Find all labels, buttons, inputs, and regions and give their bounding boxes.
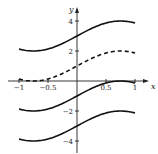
x-axis-arrow-icon	[143, 79, 149, 83]
x-tick-label: 1	[133, 84, 137, 92]
axes	[8, 7, 149, 153]
chart: −1−0.50.5142−2−4 x y	[0, 0, 158, 154]
y-tick-label: −2	[63, 108, 73, 116]
x-tick-label: −0.5	[40, 84, 57, 92]
y-tick-label: 2	[69, 48, 73, 56]
y-axis-arrow-icon	[75, 7, 79, 13]
x-axis-label: x	[151, 82, 156, 91]
y-tick-label: 4	[69, 18, 74, 26]
y-tick-label: −4	[63, 138, 74, 146]
x-tick-label: −1	[14, 84, 24, 92]
x-tick-label: 0.5	[100, 84, 111, 92]
y-axis-label: y	[68, 5, 74, 14]
